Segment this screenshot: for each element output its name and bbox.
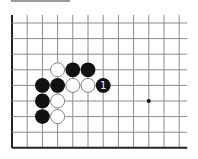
black-stone-icon (50, 78, 65, 93)
white-stone-icon (66, 78, 80, 92)
black-stone-icon (35, 78, 50, 93)
black-stone (35, 78, 50, 93)
white-stone (51, 94, 65, 108)
white-stone-icon (81, 78, 95, 92)
white-stone (51, 110, 65, 124)
black-stone-icon (65, 62, 80, 77)
black-stone-icon (81, 62, 96, 77)
black-stone (65, 62, 80, 77)
white-stone-icon (51, 110, 65, 124)
star-points (147, 99, 151, 103)
black-stone (81, 62, 96, 77)
move-number-label: 1 (100, 80, 106, 91)
white-stone (51, 63, 65, 77)
black-stone (35, 109, 50, 124)
white-stone-icon (51, 94, 65, 108)
black-stone-move-1: 1 (96, 78, 111, 93)
black-stone (35, 94, 50, 109)
white-stone (81, 78, 95, 92)
white-stone-icon (51, 63, 65, 77)
white-stone (66, 78, 80, 92)
black-stone-icon (35, 94, 50, 109)
black-stone-icon (35, 109, 50, 124)
go-board: 1 (0, 0, 198, 159)
star-point (147, 99, 151, 103)
black-stone (50, 78, 65, 93)
